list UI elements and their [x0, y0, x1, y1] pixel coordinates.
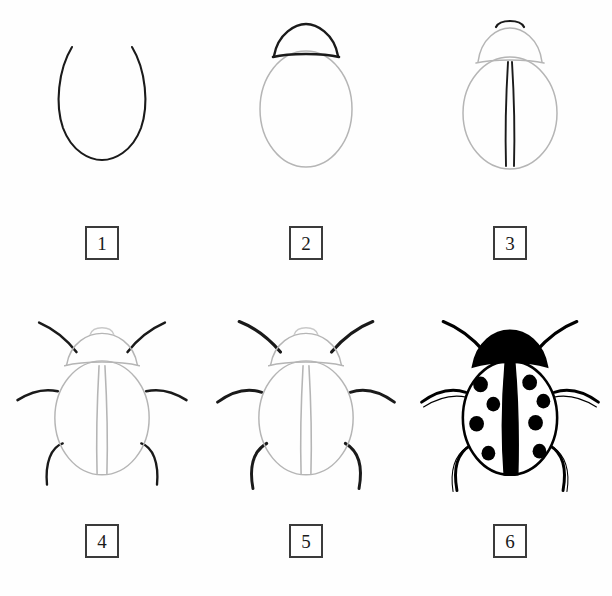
step-art-5 — [204, 298, 408, 524]
step-cell-2: 2 — [204, 0, 408, 298]
step-cell-5: 5 — [204, 298, 408, 596]
step-art-2 — [204, 0, 408, 222]
step-number-box-1: 1 — [85, 226, 119, 260]
step-grid: 1 2 — [0, 0, 612, 596]
step-number-label: 2 — [301, 234, 311, 253]
step-art-4 — [0, 298, 204, 524]
step-number-box-2: 2 — [289, 226, 323, 260]
step-number-label: 3 — [505, 234, 515, 253]
step-cell-3: 3 — [408, 0, 612, 298]
tutorial-sheet: 1 2 — [0, 0, 612, 596]
step-number-label: 5 — [301, 532, 311, 551]
step-number-label: 4 — [97, 532, 107, 551]
step-number-label: 6 — [505, 532, 515, 551]
step-art-6 — [408, 298, 612, 524]
step-cell-6: 6 — [408, 298, 612, 596]
step-cell-4: 4 — [0, 298, 204, 596]
step-art-1 — [0, 0, 204, 222]
step-art-3 — [408, 0, 612, 222]
step-number-box-5: 5 — [289, 524, 323, 558]
step-number-box-4: 4 — [85, 524, 119, 558]
step-number-label: 1 — [97, 234, 107, 253]
step-number-box-3: 3 — [493, 226, 527, 260]
step-cell-1: 1 — [0, 0, 204, 298]
step-number-box-6: 6 — [493, 524, 527, 558]
